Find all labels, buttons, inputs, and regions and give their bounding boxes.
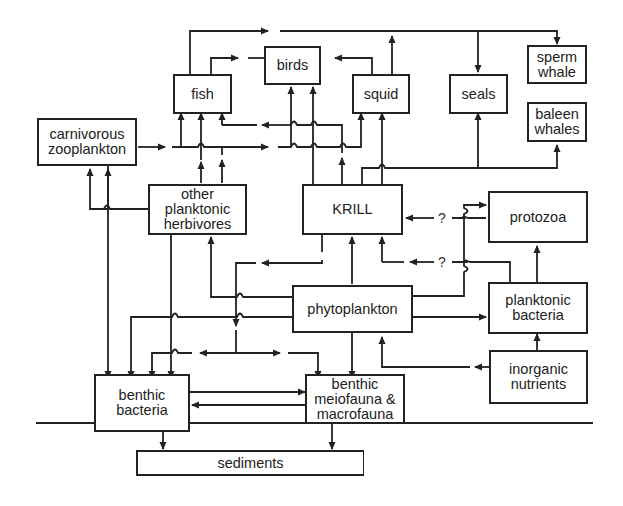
node-protozoa: protozoa xyxy=(488,191,588,243)
node-label: sediments xyxy=(217,456,283,471)
node-label: seals xyxy=(462,87,496,102)
node-sperm-whale: sperm whale xyxy=(527,45,587,84)
node-other-planktonic-herbivores: other planktonic herbivores xyxy=(148,184,247,235)
node-sediments: sediments xyxy=(136,450,364,476)
node-benthic-bacteria: benthic bacteria xyxy=(94,374,190,432)
node-phytoplankton: phytoplankton xyxy=(292,285,413,333)
node-label: planktonic bacteria xyxy=(505,293,570,323)
node-benthic-meiofauna-macrofauna: benthic meiofauna & macrofauna xyxy=(305,374,405,424)
node-label: sperm whale xyxy=(537,50,577,80)
node-label: carnivorous zooplankton xyxy=(48,127,126,157)
node-label: KRILL xyxy=(332,202,372,217)
node-fish: fish xyxy=(173,74,232,114)
node-label: baleen whales xyxy=(534,107,579,137)
uncertain-link-label: ? xyxy=(437,254,447,270)
node-baleen-whales: baleen whales xyxy=(527,102,587,142)
node-seals: seals xyxy=(449,74,508,114)
node-carnivorous-zooplankton: carnivorous zooplankton xyxy=(37,118,137,166)
node-birds: birds xyxy=(264,46,321,85)
node-krill: KRILL xyxy=(302,184,403,235)
node-squid: squid xyxy=(352,74,410,114)
node-label: fish xyxy=(191,87,214,102)
node-label: squid xyxy=(364,87,399,102)
node-label: benthic meiofauna & macrofauna xyxy=(314,377,395,422)
node-label: benthic bacteria xyxy=(116,388,168,418)
node-label: protozoa xyxy=(510,210,566,225)
node-label: other planktonic herbivores xyxy=(164,187,232,232)
node-planktonic-bacteria: planktonic bacteria xyxy=(488,282,588,334)
node-label: birds xyxy=(277,58,308,73)
node-label: phytoplankton xyxy=(307,302,397,317)
node-label: inorganic nutrients xyxy=(509,362,568,392)
node-inorganic-nutrients: inorganic nutrients xyxy=(489,350,588,404)
uncertain-link-label: ? xyxy=(437,210,447,226)
